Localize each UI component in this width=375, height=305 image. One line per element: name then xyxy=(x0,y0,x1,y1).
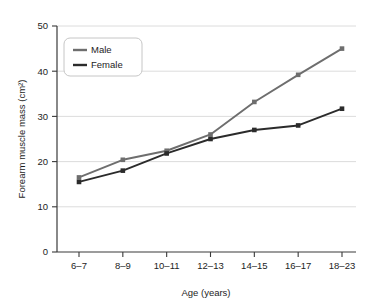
data-point-marker xyxy=(208,132,213,137)
data-point-marker xyxy=(340,106,345,111)
y-axis-ticks: 01020304050 xyxy=(37,20,57,257)
legend[interactable]: MaleFemale xyxy=(64,38,142,76)
x-tick-label: 18–23 xyxy=(329,260,355,271)
series-line-female xyxy=(79,109,342,182)
y-tick-label: 40 xyxy=(37,66,48,77)
data-point-marker xyxy=(121,168,126,173)
x-tick-label: 14–15 xyxy=(241,260,267,271)
x-tick-label: 12–13 xyxy=(197,260,223,271)
y-axis-title: Forearm muscle mass (cm²) xyxy=(16,80,27,199)
y-tick-label: 0 xyxy=(43,246,48,257)
legend-label-female[interactable]: Female xyxy=(91,59,123,70)
data-point-marker xyxy=(296,123,301,128)
data-point-marker xyxy=(77,175,82,180)
x-tick-label: 16–17 xyxy=(285,260,311,271)
data-point-marker xyxy=(164,151,169,156)
x-axis-title: Age (years) xyxy=(181,287,230,298)
x-axis-ticks: 6–78–910–1112–1314–1516–1718–23 xyxy=(71,252,355,271)
line-chart: 01020304050 6–78–910–1112–1314–1516–1718… xyxy=(0,0,375,305)
x-tick-label: 6–7 xyxy=(71,260,87,271)
x-tick-label: 10–11 xyxy=(154,260,180,271)
legend-label-male[interactable]: Male xyxy=(91,44,112,55)
data-point-marker xyxy=(252,100,257,105)
data-point-marker xyxy=(121,157,126,162)
data-point-marker xyxy=(340,46,345,51)
y-tick-label: 50 xyxy=(37,20,48,31)
data-point-marker xyxy=(208,137,213,142)
y-tick-label: 10 xyxy=(37,201,48,212)
data-point-marker xyxy=(252,128,257,133)
x-tick-label: 8–9 xyxy=(115,260,131,271)
y-tick-label: 20 xyxy=(37,156,48,167)
data-point-marker xyxy=(296,73,301,78)
chart-container: 01020304050 6–78–910–1112–1314–1516–1718… xyxy=(0,0,375,305)
y-tick-label: 30 xyxy=(37,111,48,122)
data-point-marker xyxy=(77,180,82,185)
